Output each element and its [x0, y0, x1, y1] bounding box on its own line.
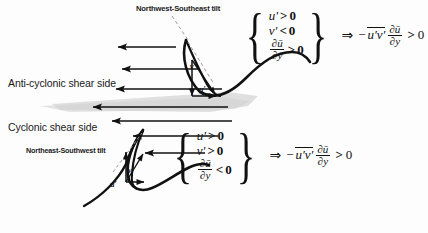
v-prime-label-top: v′	[190, 62, 196, 71]
cond-rhs: 0	[218, 129, 225, 143]
cond-op: >	[208, 129, 215, 143]
math-block-cyclonic: { u′ > 0 v′ > 0 ∂ū ∂y < 0 } ⇒ − u′v′ ∂ū …	[168, 128, 352, 183]
shear-fraction-result-bottom: ∂ū ∂y	[315, 144, 330, 167]
condition-u-prime-top: u′ > 0	[269, 9, 304, 23]
cond-rhs: 0	[289, 24, 296, 38]
condition-v-prime-top: v′ < 0	[269, 24, 304, 38]
fraction-denominator: ∂y	[270, 49, 284, 61]
right-brace-bottom: }	[236, 128, 254, 183]
label-cyclonic-shear-side: Cyclonic shear side	[8, 122, 97, 133]
condition-shear-bottom: ∂ū ∂y < 0	[197, 158, 232, 181]
cond-lhs: v′	[197, 144, 206, 158]
jet-core-shading	[40, 92, 258, 112]
tilt-leader-top	[172, 16, 214, 84]
minus-sign: −	[286, 147, 293, 163]
fraction-numerator: ∂ū	[198, 158, 213, 169]
shear-fraction-top: ∂ū ∂y	[270, 38, 285, 61]
cond-op: >	[207, 144, 214, 158]
cond-op: <	[216, 163, 223, 177]
result-expression-top: − u′v′ ∂ū ∂y > 0	[358, 24, 424, 47]
cond-rhs: 0	[225, 163, 232, 177]
cond-lhs: u′	[269, 9, 278, 23]
label-northeast-southwest-tilt: Northeast-Southwest tilt	[26, 147, 105, 154]
implies-arrow-top: ⇒	[341, 27, 353, 43]
cond-rhs: 0	[297, 43, 304, 57]
fraction-denominator: ∂y	[198, 169, 212, 181]
result-op: >	[335, 147, 342, 163]
minus-sign: −	[358, 27, 365, 43]
condition-u-prime-bottom: u′ > 0	[197, 129, 232, 143]
cond-op: >	[288, 43, 295, 57]
label-anticyclonic-shear-side: Anti-cyclonic shear side	[8, 78, 116, 89]
fraction-numerator: ∂ū	[315, 144, 330, 155]
label-northwest-southeast-tilt: Northwest-Southeast tilt	[136, 5, 220, 13]
implies-arrow-bottom: ⇒	[269, 147, 281, 163]
eddy-flux-term: u′v′	[295, 147, 313, 163]
cond-op: >	[280, 9, 287, 23]
result-rhs: 0	[346, 147, 353, 163]
fraction-denominator: ∂y	[388, 35, 402, 47]
cond-lhs: u′	[197, 129, 206, 143]
cond-rhs: 0	[217, 144, 224, 158]
v-prime-label-bottom: v′	[128, 166, 134, 175]
u-prime-label-bottom: u′	[110, 180, 117, 189]
math-block-anticyclonic: { u′ > 0 v′ < 0 ∂ū ∂y > 0 } ⇒ − u′v′ ∂ū …	[240, 8, 424, 63]
cond-op: <	[279, 24, 286, 38]
eddy-flux-term: u′v′	[367, 27, 385, 43]
shear-fraction-bottom: ∂ū ∂y	[198, 158, 213, 181]
result-rhs: 0	[418, 27, 425, 43]
fraction-denominator: ∂y	[316, 155, 330, 167]
condition-v-prime-bottom: v′ > 0	[197, 144, 232, 158]
result-expression-bottom: − u′v′ ∂ū ∂y > 0	[286, 144, 352, 167]
conditions-bottom: u′ > 0 v′ > 0 ∂ū ∂y < 0	[194, 129, 235, 182]
conditions-top: u′ > 0 v′ < 0 ∂ū ∂y > 0	[266, 9, 307, 62]
condition-shear-top: ∂ū ∂y > 0	[269, 38, 304, 61]
cond-rhs: 0	[290, 9, 297, 23]
fraction-numerator: ∂ū	[270, 38, 285, 49]
left-brace-top: {	[246, 8, 264, 63]
left-brace-bottom: {	[174, 128, 192, 183]
shear-fraction-result-top: ∂ū ∂y	[387, 24, 402, 47]
cond-lhs: v′	[269, 24, 278, 38]
right-brace-top: }	[308, 8, 326, 63]
result-op: >	[407, 27, 414, 43]
u-prime-label-top: u′	[199, 85, 206, 94]
fraction-numerator: ∂ū	[387, 24, 402, 35]
